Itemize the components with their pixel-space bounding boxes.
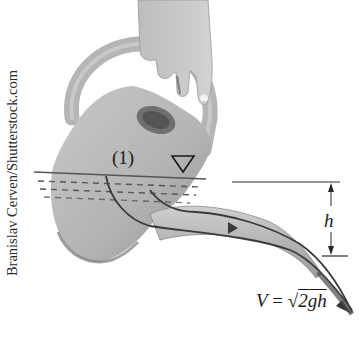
height-label: h	[324, 210, 334, 232]
watering-can-figure: Branislav Cerven/Shutterstock.com	[0, 0, 361, 355]
formula-lhs: V	[256, 290, 268, 311]
hand	[138, 0, 212, 105]
formula-radicand: 2gh	[298, 290, 327, 311]
formula-radical-icon: √	[288, 290, 298, 311]
velocity-formula: V = √2gh	[256, 290, 327, 312]
formula-equals: =	[268, 290, 288, 311]
point-1-label: (1)	[112, 147, 134, 169]
